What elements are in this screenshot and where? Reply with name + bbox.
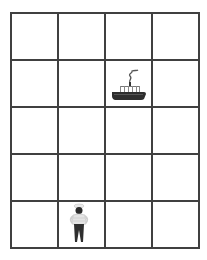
- grid-cell-r2-c1[interactable]: [59, 108, 106, 155]
- grid-cell-r4-c3[interactable]: [153, 202, 200, 249]
- grid-cell-r0-c1[interactable]: [59, 14, 106, 61]
- grid-cell-r3-c2[interactable]: [106, 155, 153, 202]
- grid-cell-r2-c3[interactable]: [153, 108, 200, 155]
- grid-cell-r2-c0[interactable]: [12, 108, 59, 155]
- grid-cell-r3-c0[interactable]: [12, 155, 59, 202]
- grid-cell-r0-c3[interactable]: [153, 14, 200, 61]
- grid-cell-r1-c2[interactable]: [106, 61, 153, 108]
- grid-cell-r3-c1[interactable]: [59, 155, 106, 202]
- grid-cell-r4-c1[interactable]: [59, 202, 106, 249]
- grid-cell-r1-c0[interactable]: [12, 61, 59, 108]
- grid-cell-r0-c0[interactable]: [12, 14, 59, 61]
- grid-cell-r0-c2[interactable]: [106, 14, 153, 61]
- grid-cell-r1-c3[interactable]: [153, 61, 200, 108]
- grid-cell-r4-c2[interactable]: [106, 202, 153, 249]
- sailor-icon[interactable]: [59, 202, 104, 247]
- game-board: [10, 12, 200, 249]
- grid-cell-r3-c3[interactable]: [153, 155, 200, 202]
- grid-cell-r1-c1[interactable]: [59, 61, 106, 108]
- grid-cell-r2-c2[interactable]: [106, 108, 153, 155]
- grid-cell-r4-c0[interactable]: [12, 202, 59, 249]
- steamship-icon[interactable]: [106, 61, 151, 106]
